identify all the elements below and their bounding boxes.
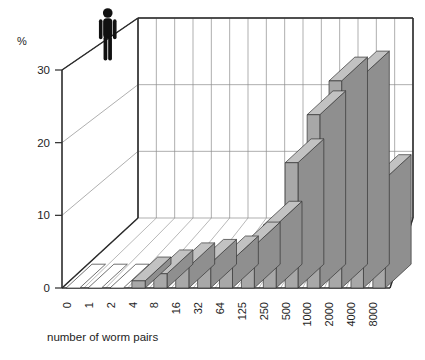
- bar-series: [66, 51, 411, 288]
- person-arm-right: [113, 19, 117, 39]
- left-wall: [62, 18, 138, 288]
- bar-front-face: [132, 281, 145, 288]
- y-tick-label-10: 10: [37, 209, 50, 221]
- x-tick-label-4000: 4000: [345, 302, 357, 326]
- x-tick-label-32: 32: [192, 302, 204, 314]
- x-tick-label-8: 8: [148, 302, 160, 308]
- x-tick-label-0: 0: [61, 302, 73, 308]
- person-torso: [103, 18, 112, 38]
- x-tick-label-1000: 1000: [301, 302, 313, 326]
- x-axis-caption: number of worm pairs: [47, 331, 158, 343]
- person-leg-right: [108, 36, 112, 60]
- person-head: [103, 8, 113, 18]
- human-silhouette-icon: [99, 8, 117, 60]
- y-axis-unit-label: %: [17, 35, 27, 47]
- person-arm-left: [99, 19, 103, 39]
- person-leg-left: [104, 36, 108, 60]
- three-d-bar-chart: %010203001248163264125250500100020004000…: [0, 0, 425, 360]
- y-tick-label-30: 30: [37, 64, 50, 76]
- figure-canvas: %010203001248163264125250500100020004000…: [0, 0, 425, 360]
- x-tick-label-8000: 8000: [367, 302, 379, 326]
- x-tick-label-4: 4: [127, 302, 139, 308]
- x-tick-label-125: 125: [236, 302, 248, 320]
- x-tick-label-500: 500: [280, 302, 292, 320]
- y-tick-label-0: 0: [44, 282, 50, 294]
- x-tick-label-16: 16: [170, 302, 182, 314]
- x-tick-label-2: 2: [105, 302, 117, 308]
- x-tick-label-250: 250: [258, 302, 270, 320]
- x-tick-label-2000: 2000: [323, 302, 335, 326]
- y-tick-label-20: 20: [37, 137, 50, 149]
- x-tick-label-1: 1: [83, 302, 95, 308]
- x-tick-label-64: 64: [214, 302, 226, 314]
